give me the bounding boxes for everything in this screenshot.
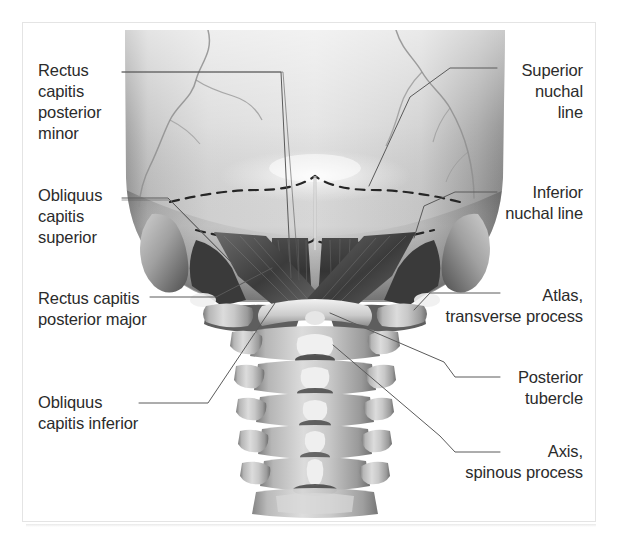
label-obliquus-capitis-superior: Obliquus capitis superior — [38, 185, 102, 248]
figure-root: Rectus capitis posterior minor Obliquus … — [0, 0, 619, 546]
vertebra-c7 — [252, 488, 378, 518]
label-obliquus-capitis-inferior: Obliquus capitis inferior — [38, 392, 138, 434]
cervical-spine — [203, 299, 427, 518]
occipital-bone — [125, 30, 505, 305]
vertebra-c4 — [236, 393, 394, 430]
label-rectus-capitis-posterior-minor: Rectus capitis posterior minor — [38, 60, 101, 144]
label-inferior-nuchal-line: Inferior nuchal line — [505, 182, 583, 224]
atlas-posterior-tubercle — [305, 311, 325, 325]
label-posterior-tubercle: Posterior tubercle — [518, 367, 583, 409]
label-superior-nuchal-line: Superior nuchal line — [521, 60, 583, 123]
label-atlas-transverse-process: Atlas, transverse process — [445, 285, 583, 327]
label-axis-spinous-process: Axis, spinous process — [465, 441, 583, 483]
vertebra-c3 — [234, 360, 396, 398]
label-rectus-capitis-posterior-major: Rectus capitis posterior major — [38, 288, 147, 330]
vertebra-c5 — [238, 425, 392, 462]
axis-spinous-process — [297, 334, 334, 356]
